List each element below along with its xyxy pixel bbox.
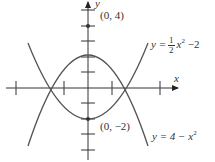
curve1-equation: y =12x2 −2 [151,36,199,55]
point-0-4 [86,24,90,28]
curve2-equation: y = 4 − x2 [152,129,197,142]
point-0-neg2 [86,117,90,121]
fraction-half: 12 [168,36,175,55]
curve1-prefix: y = [151,38,166,50]
point-label-bottom: (0, −2) [100,120,130,132]
x-axis-label: x [174,72,179,84]
y-axis-label: y [95,0,100,9]
point-label-top: (0, 4) [100,9,124,21]
